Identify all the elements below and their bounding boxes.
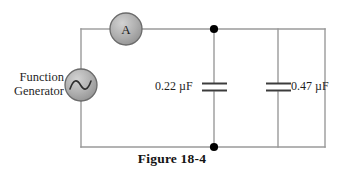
capacitor-2-label: 0.47 µF (291, 79, 329, 94)
circuit-wires (81, 29, 325, 147)
function-generator-label-line1: Function (2, 70, 64, 84)
function-generator-label: Function Generator (2, 70, 64, 98)
capacitor-1-label: 0.22 µF (155, 79, 193, 94)
capacitor-2 (266, 84, 291, 91)
top-junction-node (210, 25, 218, 33)
function-generator-label-line2: Generator (2, 84, 64, 98)
ammeter: A (110, 13, 142, 45)
capacitor-1 (202, 84, 227, 91)
figure-18-4: A Function Generator 0.22 µF 0.47 µF Fig… (0, 0, 344, 174)
ammeter-label: A (121, 22, 131, 37)
function-generator (65, 69, 97, 101)
figure-caption: Figure 18-4 (0, 151, 344, 167)
bottom-junction-node (210, 143, 218, 151)
